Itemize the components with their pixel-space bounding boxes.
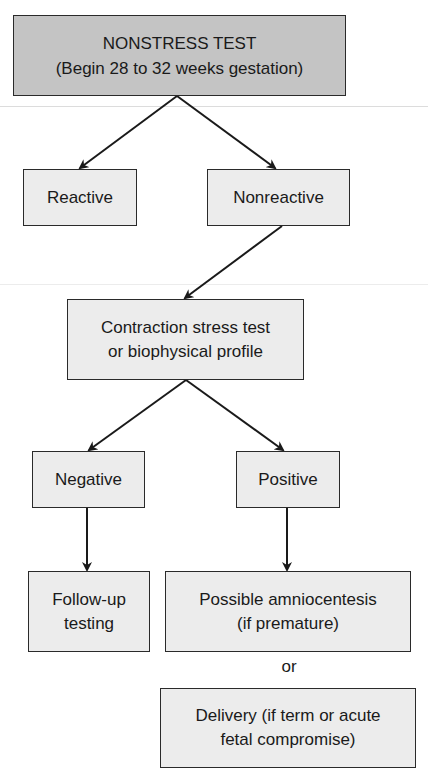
node-nonstress-test: NONSTRESS TEST (Begin 28 to 32 weeks ges… (13, 15, 346, 96)
node-nonreactive: Nonreactive (207, 169, 350, 226)
node-line-1: Delivery (if term or acute (195, 704, 380, 728)
node-line-2: fetal compromise) (220, 728, 355, 752)
node-line-1: Contraction stress test (101, 316, 270, 340)
arrow-cst-to-negative (89, 380, 186, 450)
node-line-2: testing (64, 612, 114, 636)
node-label: Negative (55, 468, 122, 492)
node-line-2: or biophysical profile (108, 340, 263, 364)
node-contraction-stress-test: Contraction stress test or biophysical p… (67, 299, 304, 380)
node-positive: Positive (236, 451, 340, 508)
node-reactive: Reactive (23, 169, 137, 226)
node-possible-amniocentesis: Possible amniocentesis (if premature) (165, 571, 411, 652)
node-label: Reactive (47, 186, 113, 210)
node-label: Nonreactive (233, 186, 324, 210)
or-label: or (269, 657, 309, 677)
node-title: NONSTRESS TEST (103, 31, 257, 56)
connector-arrows (0, 0, 428, 777)
arrow-cst-to-positive (186, 380, 283, 450)
arrow-nst-to-nonreactive (177, 96, 275, 168)
node-line-1: Possible amniocentesis (199, 588, 377, 612)
arrow-nonreactive-to-cst (185, 226, 282, 298)
arrow-nst-to-reactive (80, 96, 177, 168)
node-line-1: Follow-up (52, 588, 126, 612)
node-line-2: (if premature) (237, 612, 339, 636)
node-subtitle: (Begin 28 to 32 weeks gestation) (56, 56, 304, 81)
node-label: Positive (258, 468, 318, 492)
node-follow-up-testing: Follow-up testing (28, 571, 150, 652)
node-delivery: Delivery (if term or acute fetal comprom… (160, 688, 416, 768)
node-negative: Negative (32, 451, 145, 508)
